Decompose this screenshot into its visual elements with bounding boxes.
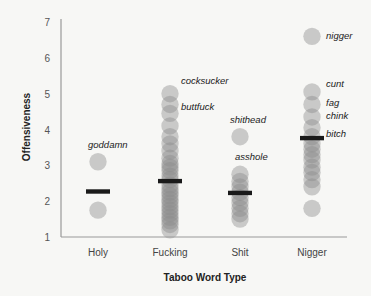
annotation-label: buttfuck (181, 101, 216, 112)
data-point (303, 28, 320, 45)
data-point (231, 210, 248, 227)
data-point (303, 178, 320, 195)
data-point (231, 128, 248, 145)
annotation-label: bitch (326, 128, 346, 139)
data-point (89, 153, 106, 170)
y-axis-ticks: 1234567 (44, 17, 50, 243)
y-tick-label: 1 (44, 232, 50, 243)
data-point (161, 221, 178, 238)
y-tick-label: 4 (44, 125, 50, 136)
data-point (89, 201, 106, 218)
mean-bar (86, 189, 110, 193)
chart: 1234567 goddamncocksuckerbuttfuckshithea… (0, 0, 371, 296)
annotation-label: nigger (326, 30, 353, 41)
annotation-label: asshole (235, 151, 268, 162)
y-tick-label: 7 (44, 17, 50, 28)
x-axis-title: Taboo Word Type (164, 272, 247, 283)
y-tick-label: 2 (44, 196, 50, 207)
annotation-label: fag (326, 97, 340, 108)
y-tick-label: 5 (44, 89, 50, 100)
annotation-label: cocksucker (181, 75, 229, 86)
x-axis-category-labels: HolyFuckingShitNigger (88, 247, 327, 258)
x-tick-label: Shit (231, 247, 248, 258)
annotation-label: chink (326, 110, 349, 121)
annotation-label: shithead (230, 114, 267, 125)
annotation-label: cunt (326, 78, 344, 89)
x-tick-label: Nigger (297, 247, 327, 258)
mean-bar (158, 179, 182, 183)
mean-bar (300, 136, 324, 140)
y-tick-label: 6 (44, 53, 50, 64)
annotation-label: goddamn (88, 139, 128, 150)
data-points (89, 28, 320, 239)
mean-bar (228, 191, 252, 195)
x-tick-label: Fucking (152, 247, 187, 258)
y-axis-title: Offensiveness (21, 92, 32, 161)
x-tick-label: Holy (88, 247, 108, 258)
y-tick-label: 3 (44, 160, 50, 171)
data-point (303, 200, 320, 217)
